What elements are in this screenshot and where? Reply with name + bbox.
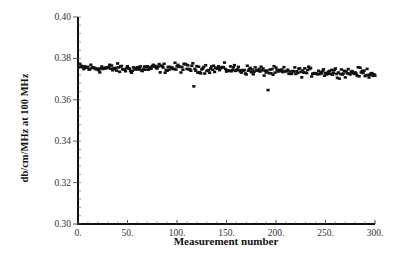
data-point (115, 69, 118, 72)
data-point (181, 68, 184, 71)
scatter-chart: 0.300.320.340.360.380.400.50.100.150.200… (0, 0, 396, 264)
data-point (233, 64, 236, 67)
x-tick-label: 250. (317, 228, 334, 238)
data-point (365, 68, 368, 71)
data-point (320, 72, 323, 75)
data-point (186, 64, 189, 67)
data-point (298, 67, 301, 70)
data-point (309, 67, 312, 70)
data-point (252, 73, 255, 76)
y-tick-label: 0.36 (54, 95, 71, 105)
data-point (243, 69, 246, 72)
data-point (124, 70, 127, 73)
data-point (237, 66, 240, 69)
x-axis-label: Measurement number (174, 235, 279, 247)
y-axis-label: db/cm/MHz at 100 MHz (19, 74, 30, 183)
data-point-outlier (192, 85, 195, 88)
data-point (296, 72, 299, 75)
data-point (290, 72, 293, 75)
data-point (332, 71, 335, 74)
data-point (89, 64, 92, 67)
data-point (340, 68, 343, 71)
data-point (110, 64, 113, 67)
data-point (199, 72, 202, 75)
data-point (232, 66, 235, 69)
data-point (150, 67, 153, 70)
data-point (300, 76, 303, 79)
data-point (179, 71, 182, 74)
data-point (362, 72, 365, 75)
y-tick-label: 0.40 (54, 12, 71, 22)
data-point (208, 71, 211, 74)
data-point (191, 62, 194, 65)
y-tick-label: 0.34 (54, 136, 71, 146)
data-point (288, 70, 291, 73)
data-point (174, 68, 177, 71)
data-point (349, 73, 352, 76)
data-point (229, 65, 232, 68)
data-point (344, 76, 347, 79)
data-point (190, 64, 193, 67)
data-point-outlier (266, 89, 269, 92)
x-tick-label: 0. (74, 228, 81, 238)
data-point (139, 65, 142, 68)
data-point (310, 75, 313, 78)
data-point (223, 61, 226, 64)
data-point (162, 66, 165, 69)
data-point (189, 69, 192, 72)
data-point (204, 64, 207, 67)
data-point (274, 66, 277, 69)
data-point (116, 62, 119, 65)
data-point (157, 65, 160, 68)
data-point (265, 69, 268, 72)
data-point (173, 62, 176, 65)
data-point (273, 71, 276, 74)
data-point (180, 66, 183, 69)
data-point (197, 65, 200, 68)
data-point (128, 67, 131, 70)
data-point (373, 74, 376, 77)
data-point (358, 75, 361, 78)
data-point (131, 70, 134, 73)
data-point (213, 71, 216, 74)
data-point (120, 65, 123, 68)
data-point (114, 67, 117, 70)
data-point (98, 71, 101, 74)
data-point (322, 68, 325, 71)
data-point (144, 68, 147, 71)
data-point (245, 73, 248, 76)
data-point (330, 69, 333, 72)
data-point (159, 71, 162, 74)
data-point (231, 69, 234, 72)
data-point (118, 71, 121, 74)
data-point (363, 69, 366, 72)
data-point (292, 70, 295, 73)
data-point (347, 68, 350, 71)
data-point (86, 66, 89, 69)
data-point (203, 72, 206, 75)
data-point (293, 66, 296, 69)
data-point (163, 63, 166, 66)
data-point (212, 64, 215, 67)
data-point (367, 76, 370, 79)
plot-area: 0.300.320.340.360.380.400.50.100.150.200… (0, 0, 396, 264)
x-tick-label: 300. (367, 228, 384, 238)
data-point (305, 72, 308, 75)
y-tick-label: 0.32 (54, 178, 71, 188)
data-point (359, 66, 362, 69)
data-point (303, 67, 306, 70)
y-tick-label: 0.38 (54, 53, 71, 63)
y-tick-label: 0.30 (54, 219, 71, 229)
data-point (254, 66, 257, 69)
data-point (280, 68, 283, 71)
x-tick-label: 50. (122, 228, 134, 238)
data-point (282, 66, 285, 69)
data-point (342, 72, 345, 75)
data-point (270, 68, 273, 71)
data-point (263, 74, 266, 77)
data-point (334, 67, 337, 70)
data-point (246, 64, 249, 67)
data-point (338, 77, 341, 80)
